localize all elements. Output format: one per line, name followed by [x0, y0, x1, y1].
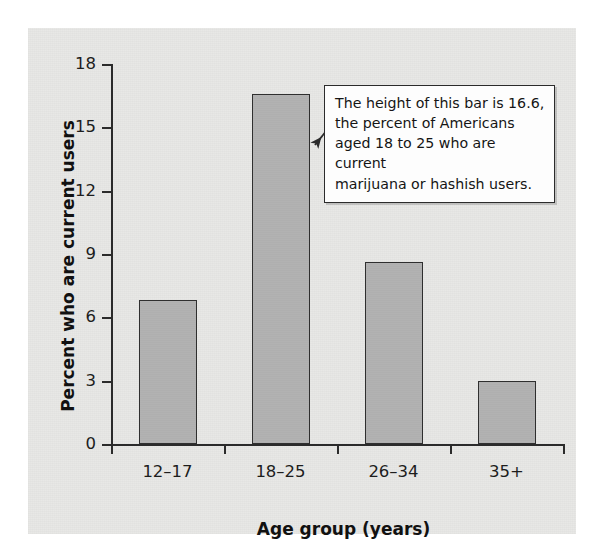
y-tick-label-18: 18 — [75, 54, 96, 73]
y-tick-label-15: 15 — [75, 117, 96, 136]
x-tick-label-12-17: 12–17 — [128, 462, 208, 481]
y-tick-3: 3 — [102, 381, 111, 383]
callout-annotation-box: The height of this bar is 16.6, the perc… — [324, 85, 555, 203]
x-tick-0 — [111, 444, 113, 454]
y-tick-label-9: 9 — [86, 244, 97, 263]
y-axis-line — [111, 64, 113, 446]
x-tick-2 — [337, 444, 339, 454]
y-tick-label-0: 0 — [86, 434, 97, 453]
y-tick-9: 9 — [102, 254, 111, 256]
y-tick-label-6: 6 — [86, 307, 97, 326]
callout-line-3: aged 18 to 25 who are current — [335, 133, 545, 173]
bar-35-plus[interactable] — [478, 381, 536, 444]
x-tick-1 — [224, 444, 226, 454]
callout-line-1: The height of this bar is 16.6, — [335, 93, 545, 113]
callout-line-4: marijuana or hashish users. — [335, 174, 545, 194]
callout-line-2: the percent of Americans — [335, 113, 545, 133]
y-tick-label-12: 12 — [75, 181, 96, 200]
y-tick-18: 18 — [102, 64, 111, 66]
bar-26-34[interactable] — [365, 262, 423, 444]
y-tick-12: 12 — [102, 191, 111, 193]
x-axis-title: Age group (years) — [111, 519, 576, 539]
x-tick-label-26-34: 26–34 — [354, 462, 434, 481]
x-tick-4 — [563, 444, 565, 454]
y-tick-label-3: 3 — [86, 371, 97, 390]
x-tick-label-18-25: 18–25 — [241, 462, 321, 481]
figure-panel: Percent who are current users 18 15 12 9… — [28, 28, 576, 534]
bar-18-25[interactable] — [252, 94, 310, 444]
y-tick-6: 6 — [102, 317, 111, 319]
x-tick-label-35-plus: 35+ — [467, 462, 547, 481]
bar-12-17[interactable] — [139, 300, 197, 444]
x-tick-3 — [450, 444, 452, 454]
y-tick-15: 15 — [102, 127, 111, 129]
y-tick-0: 0 — [102, 444, 111, 446]
